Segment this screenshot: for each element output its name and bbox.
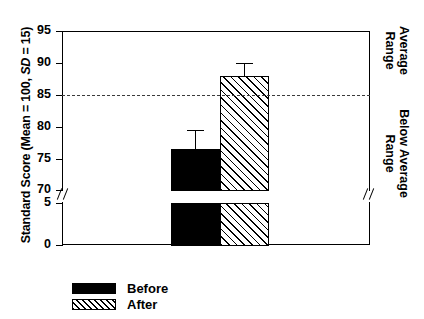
y-tick-0 — [56, 245, 63, 246]
y-tick-label-5: 5 — [44, 195, 51, 209]
error-bar-before-stem — [195, 130, 196, 149]
figure-canvas: Standard Score (Mean = 100, SD = 15) 95 … — [0, 0, 424, 319]
error-bar-after-stem — [244, 63, 245, 76]
annotation-below-average-range: Below Average Range — [383, 92, 410, 216]
y-tick-label-0: 0 — [44, 237, 51, 251]
bar-before-lower — [171, 203, 220, 246]
y-tick-label-90: 90 — [37, 55, 51, 69]
y-axis-title-italic: SD — [19, 58, 33, 75]
legend-label-before: Before — [127, 281, 168, 296]
y-tick-label-95: 95 — [37, 23, 51, 37]
legend-swatch-after-icon — [72, 299, 116, 310]
y-tick-label-80: 80 — [37, 119, 51, 133]
y-tick-95 — [56, 31, 63, 32]
y-tick-80 — [56, 127, 63, 128]
y-tick-5 — [56, 203, 63, 204]
y-axis-title-post: = 15) — [19, 27, 33, 58]
y-tick-label-75: 75 — [37, 151, 51, 165]
y-tick-75 — [56, 159, 63, 160]
y-axis-title-pre: Standard Score (Mean = 100, — [19, 75, 33, 243]
error-bar-after-cap — [236, 63, 253, 64]
y-tick-label-70: 70 — [37, 182, 51, 196]
legend-item-after[interactable]: After — [72, 297, 157, 312]
annotation-average-range: Average Range — [383, 5, 410, 97]
legend-swatch-before-icon — [72, 283, 116, 294]
bar-after-upper — [220, 76, 269, 191]
reference-line-85 — [62, 95, 370, 96]
error-bar-before-cap — [187, 130, 204, 131]
bar-before-upper — [171, 149, 220, 191]
legend-label-after: After — [127, 297, 157, 312]
legend-item-before[interactable]: Before — [72, 281, 168, 296]
y-tick-90 — [56, 63, 63, 64]
bar-after-lower — [220, 203, 269, 246]
y-tick-label-85: 85 — [37, 87, 51, 101]
y-axis-title: Standard Score (Mean = 100, SD = 15) — [19, 5, 33, 265]
